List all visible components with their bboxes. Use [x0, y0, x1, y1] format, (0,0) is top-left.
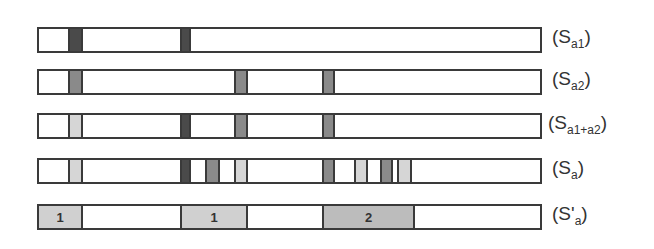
label-sa1: (Sa1) [552, 26, 591, 51]
segment-mid [322, 115, 335, 137]
label-sa: (Sa) [552, 157, 584, 182]
block-label: 1 [210, 210, 217, 225]
segment-dark [180, 29, 191, 51]
segment-dark [180, 160, 191, 182]
segment-mid [322, 71, 335, 93]
segment-light [234, 160, 248, 182]
segment-dark [68, 29, 83, 51]
block-label: 1 [56, 210, 63, 225]
segment-light [354, 160, 368, 182]
segment-mid [234, 115, 248, 137]
label-sa1-a2: (Sa1+a2) [548, 112, 607, 137]
segment-mid [234, 71, 248, 93]
sequence-bar-sa-prime: 1 1 2 [37, 204, 542, 230]
sequence-bar-sa1 [37, 27, 542, 53]
segment-light [397, 160, 412, 182]
block-label: 2 [365, 210, 372, 225]
segment-mid [68, 71, 83, 93]
sequence-bar-sa2 [37, 69, 542, 95]
segment-light [68, 115, 83, 137]
label-sa2: (Sa2) [552, 68, 591, 93]
segment-dark [180, 115, 191, 137]
sequence-bar-sa [37, 158, 542, 184]
segment-mid [205, 160, 220, 182]
label-sa-prime: (S'a) [552, 203, 588, 228]
sequence-bar-sa1-a2 [37, 113, 542, 139]
segment-mid [322, 160, 335, 182]
block-segment: 1 [180, 206, 248, 228]
segment-mid [380, 160, 393, 182]
block-segment: 2 [322, 206, 415, 228]
block-segment: 1 [39, 206, 83, 228]
segment-light [68, 160, 83, 182]
